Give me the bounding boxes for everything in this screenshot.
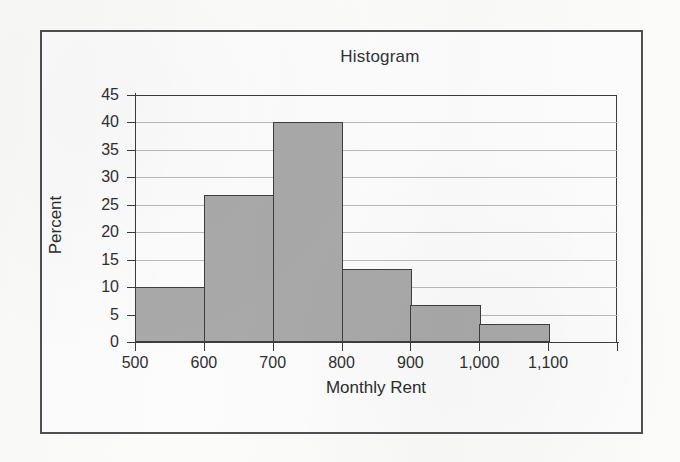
y-tick-label: 20 bbox=[77, 224, 119, 240]
histogram-bar bbox=[135, 287, 205, 342]
x-tick-mark bbox=[204, 342, 205, 351]
y-tick-label: 15 bbox=[77, 252, 119, 268]
y-tick-mark bbox=[127, 177, 135, 178]
y-tick-mark bbox=[127, 150, 135, 151]
plot-right-border bbox=[616, 95, 617, 342]
histogram-bar bbox=[204, 195, 274, 342]
y-tick-label: 30 bbox=[77, 169, 119, 185]
y-tick-mark bbox=[127, 205, 135, 206]
y-tick-label: 45 bbox=[77, 87, 119, 103]
x-tick-mark-end bbox=[617, 342, 618, 351]
chart-title: Histogram bbox=[140, 47, 620, 67]
x-tick-mark bbox=[273, 342, 274, 351]
x-tick-mark bbox=[342, 342, 343, 351]
histogram-bar bbox=[342, 269, 412, 342]
y-tick-label: 35 bbox=[77, 142, 119, 158]
y-tick-mark bbox=[127, 315, 135, 316]
gridline bbox=[135, 177, 617, 178]
y-tick-label: 25 bbox=[77, 197, 119, 213]
x-tick-mark bbox=[135, 342, 136, 351]
y-tick-label: 0 bbox=[77, 334, 119, 350]
histogram-figure: Histogram 454035302520151050 50060070080… bbox=[0, 0, 680, 462]
histogram-bar bbox=[273, 122, 343, 342]
y-axis-line bbox=[135, 93, 136, 344]
y-tick-mark bbox=[127, 232, 135, 233]
plot-top-border bbox=[135, 95, 617, 96]
y-tick-label: 5 bbox=[77, 307, 119, 323]
x-axis-title: Monthly Rent bbox=[135, 378, 617, 398]
gridline bbox=[135, 122, 617, 123]
y-tick-label: 10 bbox=[77, 279, 119, 295]
y-tick-mark bbox=[127, 342, 135, 343]
y-tick-mark bbox=[127, 260, 135, 261]
x-tick-label: 1,100 bbox=[508, 354, 588, 372]
y-tick-mark bbox=[127, 287, 135, 288]
x-tick-mark bbox=[548, 342, 549, 351]
y-tick-mark bbox=[127, 95, 135, 96]
plot-area bbox=[135, 95, 617, 342]
y-tick-label: 40 bbox=[77, 114, 119, 130]
x-axis-line bbox=[133, 342, 619, 343]
gridline bbox=[135, 150, 617, 151]
y-tick-mark bbox=[127, 122, 135, 123]
x-tick-mark bbox=[479, 342, 480, 351]
x-tick-mark bbox=[410, 342, 411, 351]
y-axis-title: Percent bbox=[46, 170, 66, 280]
histogram-bar bbox=[479, 324, 549, 342]
histogram-bar bbox=[410, 305, 480, 342]
